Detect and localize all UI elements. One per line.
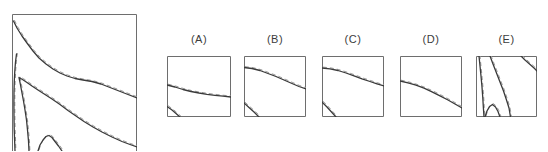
corner-contour-solid xyxy=(167,107,180,118)
corner-contour-solid xyxy=(244,103,259,117)
panel-E-border xyxy=(477,57,537,117)
corner-contour-solid xyxy=(322,102,336,117)
main-contour-solid xyxy=(400,81,462,108)
panel-E-plot xyxy=(476,56,537,117)
panel-main-border xyxy=(13,15,137,152)
main-contour-solid xyxy=(322,68,384,86)
corner-contour-dashed xyxy=(323,101,337,116)
main-contour-solid xyxy=(244,68,306,90)
panel-C-plot xyxy=(322,56,384,117)
panel-E-label: (E) xyxy=(476,32,537,47)
panel-D-label: (D) xyxy=(400,32,462,47)
corner-contour-solid xyxy=(521,56,537,71)
panel-B-border xyxy=(245,57,306,117)
diagonal-contour-solid xyxy=(490,56,511,117)
panel-D-plot xyxy=(400,56,462,117)
panel-B-label: (B) xyxy=(244,32,306,47)
panel-main-plot xyxy=(12,14,137,151)
main-contour-dashed xyxy=(168,84,231,96)
bottom-arch-contour-solid xyxy=(38,136,62,152)
panel-C-border xyxy=(323,57,384,117)
corner-contour-dashed xyxy=(245,102,260,116)
corner-contour-dashed xyxy=(168,106,181,117)
panel-C-label: (C) xyxy=(322,32,384,47)
panel-A-plot xyxy=(167,56,231,117)
panel-D-border xyxy=(401,57,462,117)
wedge-contour-solid xyxy=(19,78,137,152)
top-contour-dashed xyxy=(14,20,137,97)
panel-B-plot xyxy=(244,56,306,117)
wedge-contour-dashed xyxy=(20,77,137,151)
arch-contour-solid xyxy=(485,105,500,118)
figure: (A)(B)(C)(D)(E) xyxy=(0,0,548,151)
panel-A-label: (A) xyxy=(167,32,231,47)
